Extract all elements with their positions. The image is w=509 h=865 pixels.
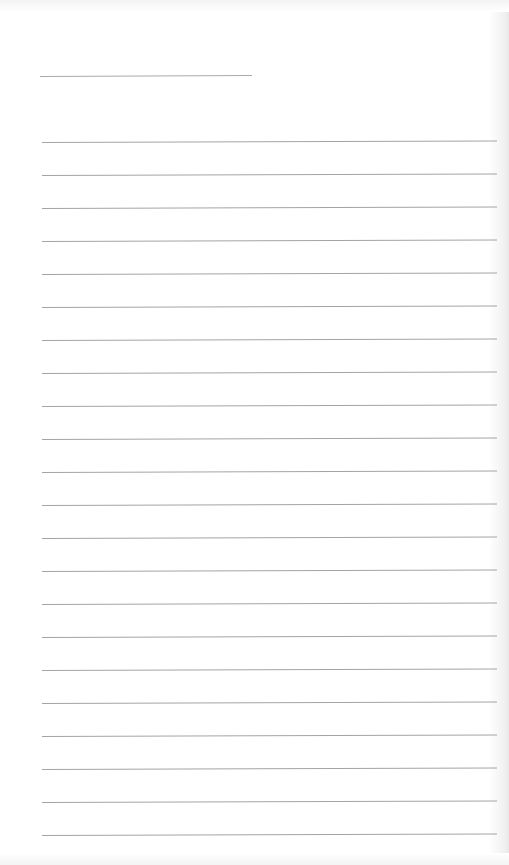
ruled-line: [42, 800, 497, 803]
ruled-line: [42, 371, 497, 374]
ruled-line: [42, 338, 497, 341]
ruled-line: [42, 272, 497, 275]
ruled-line: [42, 767, 497, 770]
ruled-line: [42, 602, 497, 605]
ruled-line: [42, 569, 497, 572]
notebook-page: [0, 0, 509, 865]
ruled-line: [42, 470, 497, 473]
page-bottom-edge: [0, 853, 509, 865]
ruled-line: [42, 833, 497, 836]
ruled-line: [42, 140, 497, 143]
ruled-line: [42, 239, 497, 242]
ruled-line: [42, 734, 497, 737]
ruled-line: [42, 668, 497, 671]
ruled-line: [42, 305, 497, 308]
ruled-line: [42, 503, 497, 506]
ruled-line: [42, 206, 497, 209]
ruled-lines: [0, 0, 509, 865]
ruled-line: [42, 437, 497, 440]
ruled-line: [42, 173, 497, 176]
ruled-line: [42, 701, 497, 704]
ruled-line: [42, 635, 497, 638]
ruled-line: [42, 404, 497, 407]
ruled-line: [42, 536, 497, 539]
